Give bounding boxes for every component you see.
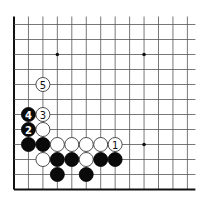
white-stone-move-1: 1 [108, 138, 122, 152]
black-stone [94, 153, 108, 167]
stone-disc [21, 138, 35, 152]
star-point [56, 53, 60, 57]
move-number-label: 5 [40, 80, 46, 91]
stone-disc [94, 138, 108, 152]
black-stone [50, 153, 64, 167]
stone-disc [79, 138, 93, 152]
stone-disc [50, 168, 64, 182]
stone-disc [108, 153, 122, 167]
stone-disc [79, 153, 93, 167]
move-number-label: 1 [112, 140, 118, 151]
move-number-label: 3 [40, 110, 46, 121]
white-stone [94, 138, 108, 152]
black-stone-move-4: 4 [21, 108, 35, 122]
stone-disc [50, 138, 64, 152]
stone-disc [36, 153, 50, 167]
stone-disc [36, 138, 50, 152]
move-number-label: 2 [25, 125, 32, 136]
go-board: 12435 [0, 0, 207, 202]
black-stone-move-2: 2 [21, 123, 35, 137]
white-stone-move-5: 5 [36, 78, 50, 92]
stone-disc [65, 138, 79, 152]
white-stone [36, 153, 50, 167]
black-stone [65, 153, 79, 167]
white-stone [65, 138, 79, 152]
black-stone [108, 153, 122, 167]
white-stone [36, 123, 50, 137]
black-stone [36, 138, 50, 152]
white-stone-move-3: 3 [36, 108, 50, 122]
stone-disc [36, 123, 50, 137]
black-stone [50, 168, 64, 182]
star-point [142, 53, 146, 57]
white-stone [79, 153, 93, 167]
stone-disc [50, 153, 64, 167]
white-stone [50, 138, 64, 152]
white-stone [79, 138, 93, 152]
black-stone [21, 138, 35, 152]
star-point [142, 143, 146, 147]
move-number-label: 4 [25, 110, 32, 121]
stone-disc [94, 153, 108, 167]
stone-disc [79, 168, 93, 182]
stone-disc [65, 153, 79, 167]
black-stone [79, 168, 93, 182]
